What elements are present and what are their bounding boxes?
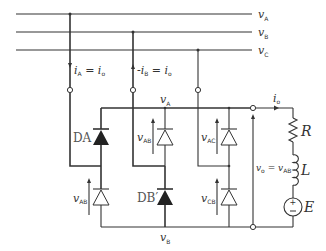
terminal-b <box>130 87 135 92</box>
bus-vb-label: vB <box>160 231 170 245</box>
diode-lower-1-icon <box>93 190 109 205</box>
current-io-label: io <box>273 92 281 105</box>
arrow-icon <box>215 118 219 123</box>
voltage-vac: vAC <box>201 131 215 144</box>
label-vb: vB <box>258 26 268 40</box>
terminal-c <box>195 87 200 92</box>
arrow-icon <box>151 118 155 123</box>
current-ib-label: -iB = io <box>137 64 172 77</box>
output-terminal-top <box>250 105 255 110</box>
terminal-a <box>67 87 72 92</box>
resistor-icon <box>289 118 297 142</box>
voltage-vcb: vCB <box>201 192 216 205</box>
output-terminal-bottom <box>250 224 255 229</box>
label-vc: vC <box>258 44 268 58</box>
arrow-icon <box>274 106 279 111</box>
inductor-label: L <box>300 162 310 178</box>
label-va: vA <box>258 8 269 22</box>
bus-va-label: vA <box>160 93 171 107</box>
inductor-icon <box>293 155 298 186</box>
diode-db-icon <box>157 190 173 205</box>
diode-upper-3-icon <box>221 130 237 145</box>
voltage-vab-upper: vAB <box>137 131 151 144</box>
output-voltage-label: vo = vAB <box>256 163 291 174</box>
voltage-vab-lower: vAB <box>73 192 87 205</box>
source-label: E <box>303 199 314 215</box>
arrow-icon <box>131 64 135 69</box>
current-ia-label: iA = io <box>74 64 105 77</box>
arrow-icon <box>251 114 255 119</box>
arrow-icon <box>215 178 219 183</box>
diode-lower-3-icon <box>221 190 237 205</box>
diode-da-icon <box>93 130 109 145</box>
junction-dot <box>228 165 231 168</box>
arrow-icon <box>87 178 91 183</box>
plus-sign: + <box>290 198 297 207</box>
arrow-icon <box>68 63 72 68</box>
diode-upper-2-icon <box>157 130 173 145</box>
resistor-label: R <box>300 123 312 139</box>
label-da: DA <box>73 131 92 145</box>
label-db: DB′ <box>137 191 158 205</box>
rectifier-diagram: vA vB vC iA = io -iB = io vA io vB DA vA… <box>0 0 326 251</box>
